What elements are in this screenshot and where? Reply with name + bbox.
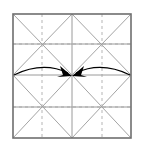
crease-pattern-canvas (0, 0, 141, 147)
crease-pattern-figure (0, 0, 141, 147)
